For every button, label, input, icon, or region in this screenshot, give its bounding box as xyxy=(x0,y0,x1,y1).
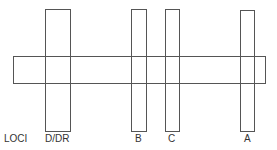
locus-label-c: C xyxy=(168,134,175,144)
locus-box-b xyxy=(131,9,147,132)
loci-diagram: LOCI D/DR B C A xyxy=(0,0,277,150)
locus-label-d-dr: D/DR xyxy=(45,134,69,144)
locus-box-a xyxy=(240,10,255,132)
locus-box-c xyxy=(165,9,180,132)
locus-label-b: B xyxy=(135,134,142,144)
locus-label-a: A xyxy=(244,134,251,144)
locus-box-d-dr xyxy=(45,9,71,132)
loci-row-label: LOCI xyxy=(4,134,27,144)
